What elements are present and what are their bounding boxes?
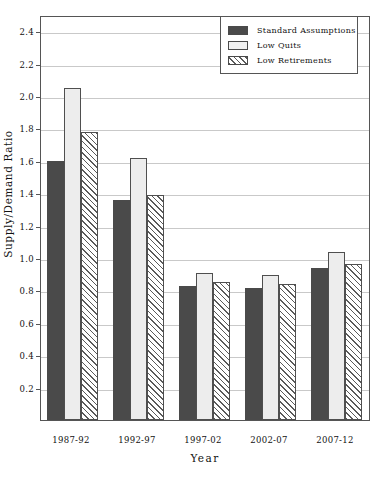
legend-item: Standard Assumptions: [228, 23, 351, 37]
bar: [130, 158, 147, 420]
x-tick-label: 1997-02: [184, 435, 221, 445]
y-tick-label: 0.4: [20, 351, 34, 361]
bar-chart: Supply/Demand Ratio 0.20.40.60.81.01.21.…: [0, 0, 383, 481]
bar: [279, 284, 296, 420]
legend-swatch-icon: [228, 41, 248, 50]
legend-label: Low Retirements: [257, 56, 332, 65]
bar-group: [179, 15, 230, 420]
bar: [213, 282, 230, 420]
y-tick-label: 2.2: [20, 60, 34, 70]
bar: [345, 264, 362, 420]
legend-swatch-icon: [228, 26, 248, 35]
y-tick-label: 2.4: [20, 27, 34, 37]
y-tick-label: 0.6: [20, 319, 34, 329]
bar: [81, 132, 98, 420]
x-axis-title: Year: [40, 452, 370, 464]
y-tick-label: 1.4: [20, 189, 34, 199]
bar: [64, 88, 81, 420]
y-tick-label: 0.2: [20, 384, 34, 394]
legend-item: Low Quits: [228, 38, 351, 52]
legend-item: Low Retirements: [228, 53, 351, 67]
bar: [147, 195, 164, 420]
y-tick-label: 0.8: [20, 286, 34, 296]
legend-swatch-icon: [228, 56, 248, 65]
bar-group: [47, 15, 98, 420]
bar: [328, 252, 345, 420]
y-tick-label: 1.2: [20, 222, 34, 232]
bar: [179, 286, 196, 420]
y-tick-label: 2.0: [20, 92, 34, 102]
bar-group: [113, 15, 164, 420]
y-axis-title: Supply/Demand Ratio: [2, 114, 14, 274]
bar: [262, 275, 279, 420]
legend-label: Low Quits: [257, 41, 301, 50]
chart-legend: Standard Assumptions Low Quits Low Retir…: [220, 16, 358, 74]
y-axis: Supply/Demand Ratio 0.20.40.60.81.01.21.…: [0, 0, 40, 421]
y-tick-label: 1.8: [20, 124, 34, 134]
legend-label: Standard Assumptions: [257, 26, 356, 35]
x-tick-label: 1987-92: [52, 435, 89, 445]
y-tick-label: 1.6: [20, 157, 34, 167]
bar-group: [311, 15, 362, 420]
y-tick-label: 1.0: [20, 254, 34, 264]
bar: [113, 200, 130, 420]
bars-layer: [41, 17, 369, 420]
x-tick-label: 2007-12: [316, 435, 353, 445]
plot-area: [40, 16, 370, 421]
bar: [196, 273, 213, 420]
x-tick-label: 2002-07: [250, 435, 287, 445]
bar: [47, 161, 64, 420]
bar-group: [245, 15, 296, 420]
bar: [245, 288, 262, 420]
bar: [311, 268, 328, 420]
x-tick-label: 1992-97: [118, 435, 155, 445]
